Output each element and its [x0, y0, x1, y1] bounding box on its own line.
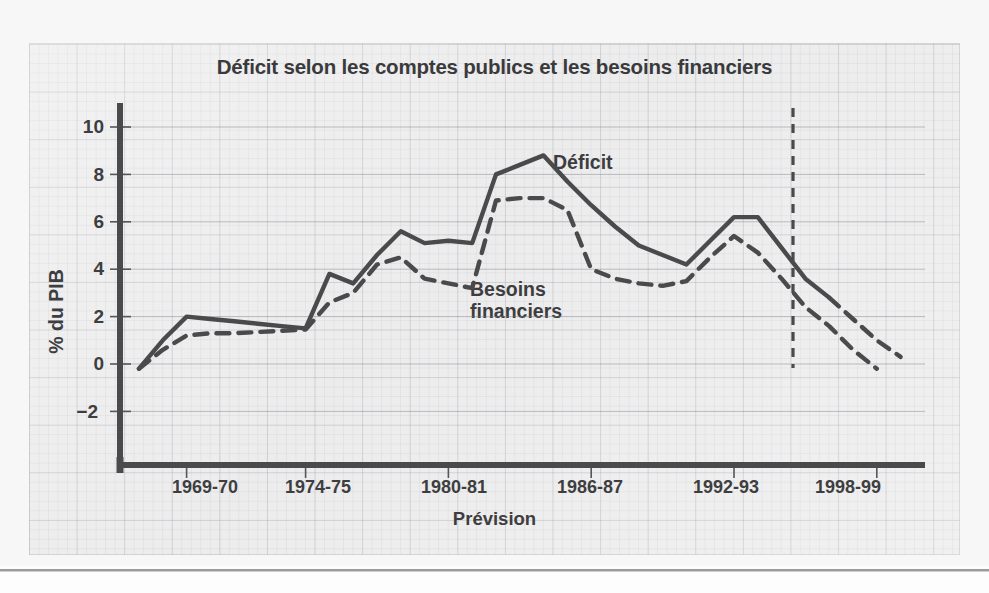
y-axis-label: % du PIB: [45, 242, 68, 382]
y-tick-label-10: 10: [58, 116, 104, 138]
series-annotation-besoins-financiers: Besoinsfinanciers: [470, 279, 562, 323]
x-tick-label-1998-99: 1998-99: [815, 477, 881, 498]
y-tick-label-neg2: −2: [52, 401, 98, 423]
x-tick-label-1986-87: 1986-87: [557, 477, 623, 498]
besoins-line-2: financiers: [470, 300, 562, 322]
x-tick-label-1980-81: 1980-81: [421, 477, 487, 498]
y-tick-label-6: 6: [58, 211, 104, 233]
x-tick-label-1974-75: 1974-75: [285, 477, 351, 498]
y-tick-label-8: 8: [58, 164, 104, 186]
chart-title: Déficit selon les comptes publics et les…: [0, 55, 989, 79]
figure-bottom-rule-shadow: [0, 571, 989, 572]
besoins-line-1: Besoins: [470, 278, 546, 300]
x-tick-label-1969-70: 1969-70: [172, 477, 238, 498]
series-annotation-deficit: Déficit: [553, 152, 613, 174]
figure-container: Déficit selon les comptes publics et les…: [0, 0, 989, 593]
x-tick-label-1992-93: 1992-93: [693, 477, 759, 498]
x-axis-label: Prévision: [0, 508, 989, 530]
